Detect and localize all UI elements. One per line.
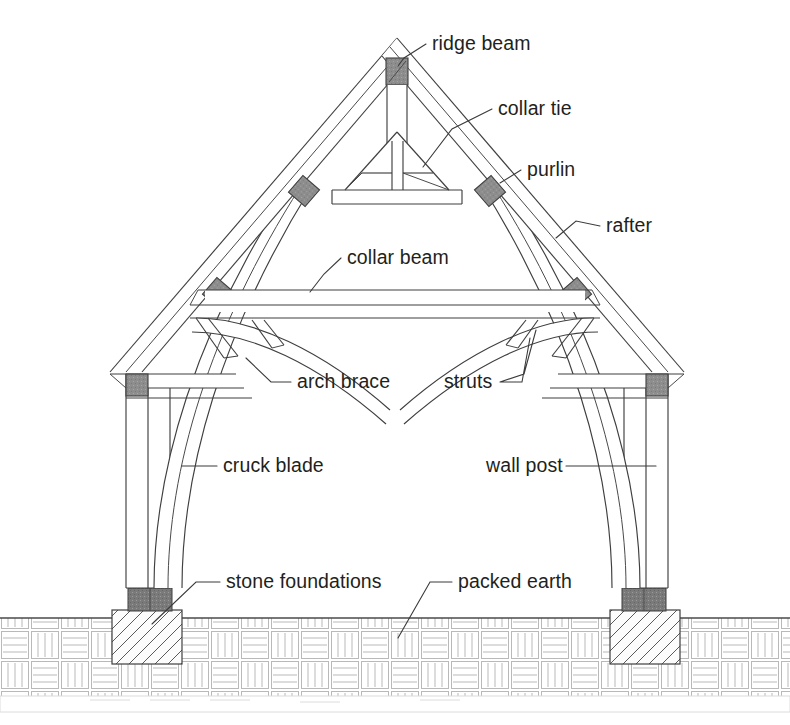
label-stone-foundations: stone foundations	[152, 570, 382, 624]
leader-line-collar-beam	[310, 258, 341, 292]
diagram-canvas: ridge beamcollar tiepurlinraftercollar b…	[0, 0, 790, 725]
collar-tie	[332, 132, 462, 204]
arch-brace-right	[400, 318, 598, 424]
label-text-packed-earth: packed earth	[458, 570, 572, 592]
eaves-joint-right	[646, 374, 668, 396]
label-text-wall-post: wall post	[485, 454, 563, 476]
label-ridge-beam: ridge beam	[398, 32, 531, 66]
foundation-left	[112, 610, 182, 664]
label-text-collar-beam: collar beam	[347, 246, 449, 268]
label-text-ridge-beam: ridge beam	[432, 32, 531, 54]
rafter-right	[382, 38, 684, 372]
foundation-right	[610, 610, 680, 664]
rafter-left	[110, 38, 412, 372]
label-text-arch-brace: arch brace	[297, 370, 390, 392]
label-text-collar-tie: collar tie	[498, 97, 572, 119]
leader-line-arch-brace	[246, 358, 291, 382]
label-text-struts: struts	[444, 370, 492, 392]
label-rafter: rafter	[556, 214, 653, 238]
label-text-cruck-blade: cruck blade	[223, 454, 324, 476]
label-collar-beam: collar beam	[310, 246, 449, 292]
ground-fade-strip	[0, 696, 790, 712]
eaves-joint-left	[126, 374, 148, 396]
cruck-frame-diagram: ridge beamcollar tiepurlinraftercollar b…	[0, 0, 790, 725]
collar-beam	[190, 290, 600, 318]
label-cruck-blade: cruck blade	[182, 454, 324, 476]
plinth-right	[622, 588, 666, 611]
label-text-rafter: rafter	[606, 214, 653, 236]
label-text-purlin: purlin	[527, 158, 575, 180]
label-text-stone-foundations: stone foundations	[226, 570, 382, 592]
ridge-beam	[386, 58, 408, 85]
plinth-left	[128, 588, 172, 611]
